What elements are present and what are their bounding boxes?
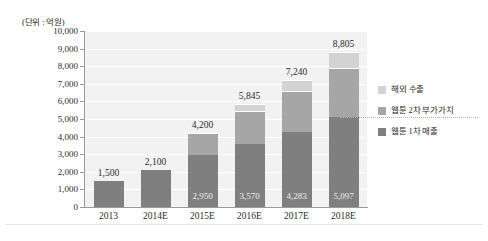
bar-segment[interactable]: 5,097 [329,117,359,207]
legend-swatch-icon [378,107,386,115]
bar-stack: 4,283 [282,80,312,207]
legend-item[interactable]: 해외 수출 [378,79,486,100]
bar-stack: 3,570 [235,104,265,207]
y-axis-tick-mark [80,119,84,120]
bar-segment[interactable] [235,111,265,144]
y-axis-tick-mark [80,31,84,32]
bar-segment[interactable] [235,104,265,111]
bar-segment[interactable] [188,133,218,155]
y-axis-tick-label: 3,000 [2,150,78,159]
y-axis-tick-label: 2,000 [2,168,78,177]
y-axis-tick-mark [80,154,84,155]
bar-total-label: 2,100 [129,157,183,167]
bar-segment-value-label: 2,950 [188,192,218,201]
bars-layer: 1,5002,1002,9504,2003,5705,8454,2837,240… [85,31,367,207]
y-axis-tick-mark [80,137,84,138]
bar-segment-value-label: 5,097 [329,192,359,201]
y-axis-tick-label: 0 [2,203,78,212]
x-axis-line [84,207,368,208]
bar-total-label: 8,805 [317,39,371,49]
bar-total-label: 4,200 [176,120,230,130]
bar-group[interactable]: 1,500 [94,31,124,207]
legend-label: 해외 수출 [391,85,424,94]
x-axis-tick-label: 2018E [320,211,367,222]
bar-segment[interactable] [329,52,359,68]
x-axis-tick-label: 2013 [85,211,132,222]
y-axis-tick-mark [80,84,84,85]
y-axis-tick-label: 5,000 [2,115,78,124]
y-axis-tick-label: 8,000 [2,62,78,71]
legend-label: 웹툰 2차 부가가치 [391,106,454,115]
bar-segment[interactable] [282,80,312,91]
y-axis-tick-label: 4,000 [2,133,78,142]
y-axis-tick-mark [80,101,84,102]
bar-segment[interactable] [94,181,124,207]
bar-total-label: 1,500 [82,168,136,178]
bar-segment-value-label: 3,570 [235,192,265,201]
bar-group[interactable]: 5,0978,805 [329,31,359,207]
bar-stack: 2,950 [188,133,218,207]
x-axis-tick-label: 2017E [273,211,320,222]
bar-segment[interactable]: 3,570 [235,144,265,207]
bar-group[interactable]: 4,2837,240 [282,31,312,207]
bar-segment-value-label: 4,283 [282,192,312,201]
y-axis-tick-label: 10,000 [2,27,78,36]
y-axis-tick-label: 6,000 [2,97,78,106]
bar-stack [141,170,171,207]
bar-segment[interactable]: 4,283 [282,132,312,207]
legend-swatch-icon [378,128,386,136]
legend-item[interactable]: 웹툰 2차 부가가치 [378,100,486,121]
y-axis-tick-label: 1,000 [2,185,78,194]
x-axis-tick-labels: 20132014E2015E2016E2017E2018E [85,211,367,227]
bar-segment[interactable] [282,91,312,132]
y-axis-tick-label: 9,000 [2,45,78,54]
x-axis-tick-label: 2014E [132,211,179,222]
y-axis-tick-mark [80,189,84,190]
x-axis-tick-label: 2015E [179,211,226,222]
y-axis-tick-labels: 10,0009,0008,0007,0006,0005,0004,0003,00… [0,0,78,241]
y-axis-tick-mark [80,66,84,67]
legend-item[interactable]: 웹툰 1차 매출 [378,121,486,142]
legend-label: 웹툰 1차 매출 [391,127,438,136]
bar-segment[interactable] [141,170,171,207]
bar-total-label: 7,240 [270,67,324,77]
bar-stack: 5,097 [329,52,359,207]
chart-figure: (단위 : 억원) 10,0009,0008,0007,0006,0005,00… [0,0,488,241]
bar-segment[interactable]: 2,950 [188,155,218,207]
y-axis-tick-mark [80,207,84,208]
bar-stack [94,181,124,207]
chart-legend: 해외 수출웹툰 2차 부가가치웹툰 1차 매출 [378,79,486,142]
x-axis-tick-label: 2016E [226,211,273,222]
y-axis-tick-mark [80,172,84,173]
bar-segment[interactable] [329,68,359,117]
y-axis-tick-mark [80,49,84,50]
bar-group[interactable]: 3,5705,845 [235,31,265,207]
y-axis-tick-label: 7,000 [2,80,78,89]
bar-group[interactable]: 2,9504,200 [188,31,218,207]
bar-total-label: 5,845 [223,91,277,101]
bar-group[interactable]: 2,100 [141,31,171,207]
legend-swatch-icon [378,86,386,94]
